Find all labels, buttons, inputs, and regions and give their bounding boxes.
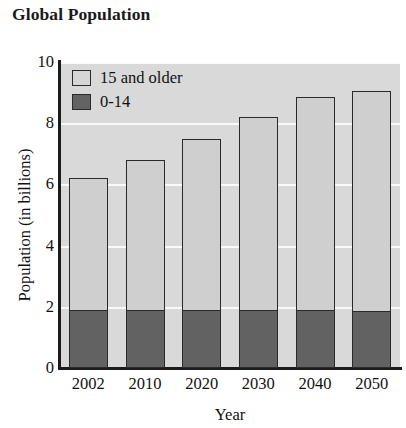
bar-segment-0-14[interactable] bbox=[296, 310, 335, 368]
bar-segment-15-and-older[interactable] bbox=[352, 91, 391, 311]
bar-segment-0-14[interactable] bbox=[126, 310, 165, 368]
bar-slot bbox=[343, 62, 400, 368]
bar-segment-0-14[interactable] bbox=[182, 310, 221, 368]
bar-segment-0-14[interactable] bbox=[352, 311, 391, 368]
legend-swatch-icon bbox=[72, 94, 91, 110]
x-axis-title: Year bbox=[60, 405, 400, 425]
bar-stack[interactable] bbox=[182, 139, 221, 368]
x-axis-tick-label: 2010 bbox=[117, 374, 174, 400]
legend-label: 0-14 bbox=[100, 92, 130, 112]
legend-swatch-icon bbox=[72, 70, 91, 86]
bar-segment-15-and-older[interactable] bbox=[239, 117, 278, 310]
y-axis-tick-label: 2 bbox=[24, 297, 54, 317]
bar-stack[interactable] bbox=[352, 91, 391, 368]
x-axis-tick-labels: 200220102020203020402050 bbox=[60, 374, 400, 400]
bar-segment-15-and-older[interactable] bbox=[182, 139, 221, 310]
bar-stack[interactable] bbox=[69, 178, 108, 368]
bar-stack[interactable] bbox=[296, 97, 335, 368]
bar-segment-15-and-older[interactable] bbox=[126, 160, 165, 310]
global-population-chart: Global Population Population (in billion… bbox=[0, 0, 406, 428]
y-axis-tick-label: 0 bbox=[24, 358, 54, 378]
chart-title: Global Population bbox=[12, 4, 150, 25]
chart-legend: 15 and older0-14 bbox=[72, 68, 182, 112]
y-axis-tick-labels: 0246810 bbox=[20, 62, 54, 368]
x-axis-tick-label: 2002 bbox=[60, 374, 117, 400]
bar-stack[interactable] bbox=[126, 160, 165, 368]
legend-label: 15 and older bbox=[100, 68, 182, 88]
bar-slot bbox=[287, 62, 344, 368]
bar-slot bbox=[230, 62, 287, 368]
x-axis-tick-label: 2020 bbox=[173, 374, 230, 400]
y-axis-tick-label: 10 bbox=[24, 52, 54, 72]
bar-stack[interactable] bbox=[239, 117, 278, 368]
bar-segment-15-and-older[interactable] bbox=[69, 178, 108, 310]
x-axis-tick-label: 2040 bbox=[287, 374, 344, 400]
x-axis-tick-label: 2030 bbox=[230, 374, 287, 400]
legend-item[interactable]: 15 and older bbox=[72, 68, 182, 88]
legend-item[interactable]: 0-14 bbox=[72, 92, 182, 112]
y-axis-tick-label: 8 bbox=[24, 113, 54, 133]
y-axis-tick-label: 6 bbox=[24, 174, 54, 194]
x-axis-tick-label: 2050 bbox=[343, 374, 400, 400]
bar-segment-15-and-older[interactable] bbox=[296, 97, 335, 310]
bar-segment-0-14[interactable] bbox=[69, 310, 108, 368]
y-axis-tick-label: 4 bbox=[24, 236, 54, 256]
bar-segment-0-14[interactable] bbox=[239, 310, 278, 368]
